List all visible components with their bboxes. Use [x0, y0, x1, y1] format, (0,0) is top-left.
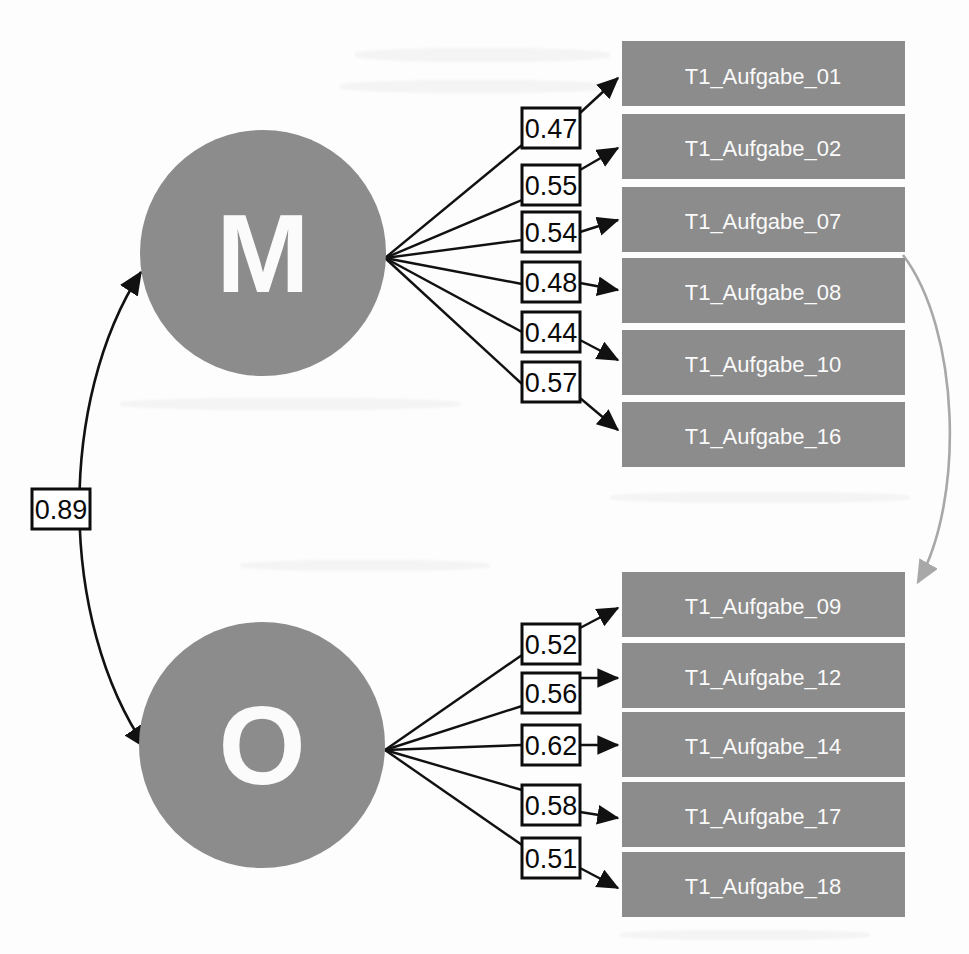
indicator-node-t1-aufgabe-12[interactable]: T1_Aufgabe_12: [622, 643, 905, 708]
latent-label-o: O: [218, 683, 305, 808]
loading-path-o-17-segment-b: [580, 812, 618, 818]
latent-node-m[interactable]: M: [140, 130, 386, 376]
coefficient-box-m-02[interactable]: 0.55: [522, 165, 580, 205]
coefficient-value: 0.44: [525, 318, 578, 348]
latent-label-m: M: [216, 191, 309, 316]
residual-covariance-curve: [903, 255, 950, 582]
loading-path-o-18-segment-a: [385, 750, 522, 845]
indicator-node-t1-aufgabe-07[interactable]: T1_Aufgabe_07: [622, 187, 905, 252]
indicator-label: T1_Aufgabe_02: [685, 136, 842, 161]
indicator-label: T1_Aufgabe_14: [685, 734, 842, 759]
indicator-label: T1_Aufgabe_10: [685, 352, 842, 377]
latent-node-o[interactable]: O: [139, 622, 385, 868]
indicator-node-t1-aufgabe-08[interactable]: T1_Aufgabe_08: [622, 258, 905, 323]
coefficient-value: 0.89: [35, 495, 88, 525]
loading-path-m-16-segment-b: [580, 398, 618, 430]
coefficient-value: 0.51: [525, 844, 578, 874]
coefficient-box-o-12[interactable]: 0.56: [522, 673, 580, 713]
loading-path-m-07-segment-b: [580, 220, 618, 232]
coefficient-value: 0.56: [525, 679, 578, 709]
coefficient-value: 0.54: [525, 218, 578, 248]
loading-path-m-08-segment-b: [580, 283, 618, 290]
loading-path-o-12-segment-a: [385, 706, 522, 750]
indicator-label: T1_Aufgabe_18: [685, 874, 842, 899]
loading-path-m-01-segment-a: [385, 145, 522, 258]
loading-path-m-01-segment-b: [580, 78, 618, 113]
coefficient-box-o-17[interactable]: 0.58: [522, 785, 580, 825]
coefficient-box-o-18[interactable]: 0.51: [522, 838, 580, 878]
coefficient-box-o-09[interactable]: 0.52: [522, 624, 580, 664]
coefficient-value: 0.57: [525, 368, 578, 398]
loading-paths-m: [385, 78, 618, 430]
loading-path-o-09-segment-b: [580, 608, 618, 628]
coefficient-box-m-07[interactable]: 0.54: [522, 212, 580, 252]
coefficient-box-o-14[interactable]: 0.62: [522, 725, 580, 765]
coefficient-value: 0.48: [525, 268, 578, 298]
indicator-label: T1_Aufgabe_08: [685, 280, 842, 305]
loading-path-m-02-segment-b: [580, 148, 618, 170]
diagram-canvas: M O T1_Aufgabe_01 T1_Aufgabe_02 T1_Aufga…: [0, 0, 969, 954]
loading-path-m-08-segment-a: [385, 258, 522, 284]
indicator-node-t1-aufgabe-02[interactable]: T1_Aufgabe_02: [622, 114, 905, 179]
sem-path-diagram: M O T1_Aufgabe_01 T1_Aufgabe_02 T1_Aufga…: [0, 0, 969, 954]
indicator-label: T1_Aufgabe_01: [685, 64, 842, 89]
indicator-node-t1-aufgabe-14[interactable]: T1_Aufgabe_14: [622, 712, 905, 777]
loading-path-m-10-segment-b: [580, 340, 618, 360]
coefficient-box-m-08[interactable]: 0.48: [522, 262, 580, 302]
indicator-label: T1_Aufgabe_16: [685, 424, 842, 449]
indicator-node-t1-aufgabe-10[interactable]: T1_Aufgabe_10: [622, 330, 905, 395]
coefficient-value: 0.58: [525, 791, 578, 821]
coefficient-value: 0.47: [525, 114, 578, 144]
indicator-label: T1_Aufgabe_17: [685, 804, 842, 829]
loading-path-o-18-segment-b: [580, 868, 618, 888]
loading-path-o-14-segment-a: [385, 745, 522, 750]
coefficient-value: 0.62: [525, 731, 578, 761]
indicator-label: T1_Aufgabe_07: [685, 209, 842, 234]
loading-path-o-17-segment-a: [385, 750, 522, 790]
loading-path-o-09-segment-a: [385, 655, 522, 750]
indicator-label: T1_Aufgabe_09: [685, 594, 842, 619]
coefficient-box-factor-correlation[interactable]: 0.89: [32, 489, 90, 529]
loading-paths-o: [385, 608, 618, 888]
indicator-node-t1-aufgabe-16[interactable]: T1_Aufgabe_16: [622, 402, 905, 467]
indicator-node-t1-aufgabe-18[interactable]: T1_Aufgabe_18: [622, 852, 905, 917]
indicator-node-t1-aufgabe-17[interactable]: T1_Aufgabe_17: [622, 782, 905, 847]
coefficient-box-m-16[interactable]: 0.57: [522, 362, 580, 402]
indicator-label: T1_Aufgabe_12: [685, 665, 842, 690]
coefficient-value: 0.52: [525, 630, 578, 660]
indicator-node-t1-aufgabe-01[interactable]: T1_Aufgabe_01: [622, 41, 905, 106]
coefficient-value: 0.55: [525, 171, 578, 201]
coefficient-box-m-10[interactable]: 0.44: [522, 312, 580, 352]
coefficient-box-m-01[interactable]: 0.47: [522, 108, 580, 148]
indicator-node-t1-aufgabe-09[interactable]: T1_Aufgabe_09: [622, 572, 905, 637]
